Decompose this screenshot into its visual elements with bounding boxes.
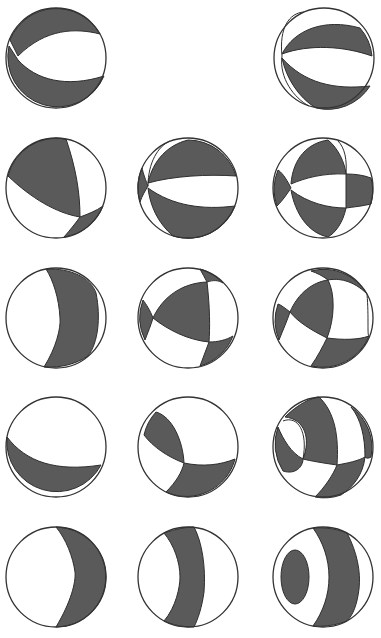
- beachball-r3c2: [138, 268, 238, 368]
- beachball-r4c2: [138, 397, 238, 497]
- compressional-region: [346, 174, 373, 208]
- beachball-r3c1: [6, 268, 106, 368]
- beachball-r4c1: [6, 397, 106, 497]
- beachball-r2c1: [6, 138, 106, 238]
- focal-mechanism-figure: [0, 0, 381, 638]
- beachball-r2c2: [138, 138, 238, 238]
- beachball-r1c3: [274, 8, 374, 109]
- beachball-r5c1: [6, 527, 106, 627]
- beachball-r3c3: [273, 268, 373, 368]
- beachball-r5c2: [138, 527, 238, 627]
- beachball-r1c1: [6, 8, 106, 108]
- beachball-r2c3: [273, 138, 373, 238]
- beachball-r5c3: [273, 527, 373, 627]
- beachball-r4c3: [273, 397, 373, 498]
- compressional-region: [281, 550, 309, 604]
